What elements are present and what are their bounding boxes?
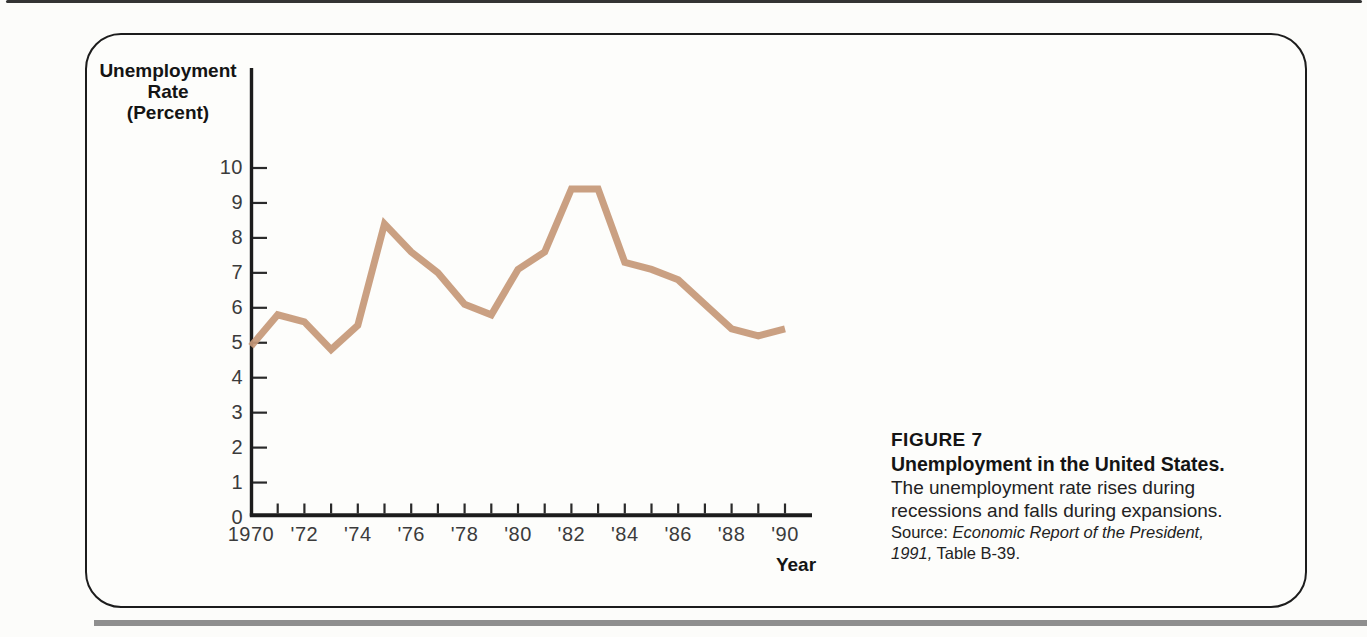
page-bottom-edge-rule <box>94 620 1367 626</box>
x-tick-label: '90 <box>753 523 817 546</box>
figure-number: FIGURE 7 <box>891 428 1251 452</box>
y-tick-label: 8 <box>201 226 243 249</box>
figure-caption: FIGURE 7 Unemployment in the United Stat… <box>891 428 1251 564</box>
source-title-italic: Economic Report of the President, <box>952 523 1203 541</box>
y-tick-label: 2 <box>201 436 243 459</box>
y-tick-label: 1 <box>201 471 243 494</box>
x-axis-title: Year <box>766 554 826 576</box>
page-top-edge-rule <box>6 0 1362 3</box>
y-tick-label: 3 <box>201 401 243 424</box>
source-year-italic: 1991, <box>891 544 932 562</box>
y-tick-label: 4 <box>201 366 243 389</box>
y-tick-label: 10 <box>201 156 243 179</box>
y-tick-label: 5 <box>201 331 243 354</box>
y-tick-label: 6 <box>201 296 243 319</box>
figure-description-line2: recessions and falls during expansions. <box>891 499 1251 522</box>
figure-description-line1: The unemployment rate rises during <box>891 476 1251 499</box>
scanned-textbook-page: Unemployment Rate (Percent) 012345678910… <box>0 0 1367 637</box>
source-prefix: Source: <box>891 523 952 541</box>
figure-source-line2: 1991, Table B-39. <box>891 543 1251 564</box>
y-axis-title: Unemployment Rate (Percent) <box>88 60 248 123</box>
figure-source-line1: Source: Economic Report of the President… <box>891 522 1251 543</box>
y-tick-label: 7 <box>201 261 243 284</box>
y-tick-label: 9 <box>201 191 243 214</box>
figure-title: Unemployment in the United States. <box>891 452 1251 476</box>
source-table-ref: Table B-39. <box>932 544 1020 562</box>
